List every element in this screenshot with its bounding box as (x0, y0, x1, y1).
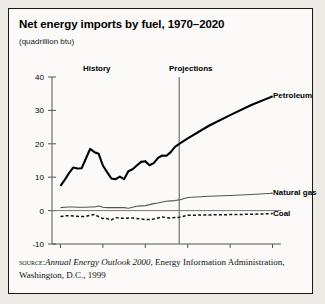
annotation-projections: Projections (169, 64, 213, 73)
svg-text:20: 20 (35, 140, 44, 149)
series-label-coal: Coal (273, 209, 290, 218)
svg-text:10: 10 (35, 173, 44, 182)
svg-text:-10: -10 (32, 240, 44, 249)
series-label-petroleum: Petroleum (273, 91, 312, 100)
series-line-petroleum (60, 96, 272, 186)
x-axis: 197019801990200020102020 (52, 244, 282, 251)
source-title: Annual Energy Outlook 2000 (45, 257, 150, 267)
svg-text:0: 0 (40, 207, 45, 216)
figure-panel: Net energy imports by fuel, 1970–2020 (q… (8, 8, 313, 294)
x-axis-ticks (60, 244, 272, 248)
source-kicker: source: (19, 257, 45, 267)
annotation-history: History (83, 64, 111, 73)
chart-svg: -10010203040 197019801990200020102020 (9, 51, 312, 251)
series-label-natural-gas: Natural gas (273, 188, 317, 197)
series-line-natural-gas (60, 193, 272, 208)
units-label: (quadrillion btu) (19, 37, 74, 46)
page-title: Net energy imports by fuel, 1970–2020 (19, 18, 224, 30)
series-line-coal (60, 214, 272, 220)
svg-text:30: 30 (35, 106, 44, 115)
plot-area: -10010203040 197019801990200020102020 Hi… (9, 51, 312, 251)
y-axis: -10010203040 (32, 73, 56, 249)
source-note: source:Annual Energy Outlook 2000, Energ… (19, 256, 307, 281)
y-axis-tick-labels: -10010203040 (32, 73, 44, 249)
svg-text:40: 40 (35, 73, 44, 82)
